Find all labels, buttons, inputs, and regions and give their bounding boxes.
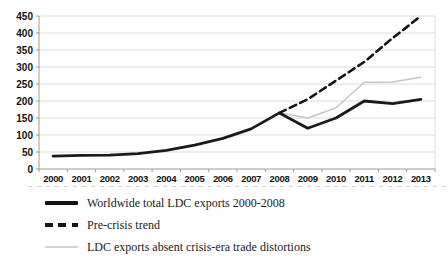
svg-text:2012: 2012: [383, 173, 403, 184]
ldc-exports-chart-svg: 0501001502002503003504004502000200120022…: [0, 0, 448, 192]
dashed-line-swatch: [45, 223, 78, 227]
svg-text:150: 150: [16, 113, 33, 124]
chart-legend-divider: [28, 186, 445, 187]
legend-label-pre-crisis-trend: Pre-crisis trend: [87, 218, 160, 233]
legend-label-absent-distortions: LDC exports absent crisis-era trade dist…: [87, 240, 311, 255]
legend-item-absent-distortions: LDC exports absent crisis-era trade dist…: [0, 236, 448, 258]
svg-text:2003: 2003: [128, 173, 148, 184]
svg-text:50: 50: [22, 147, 34, 158]
svg-text:250: 250: [16, 79, 33, 90]
legend-item-worldwide-exports: Worldwide total LDC exports 2000-2008: [0, 192, 448, 214]
legend-item-pre-crisis-trend: Pre-crisis trend: [0, 214, 448, 236]
svg-text:200: 200: [16, 96, 33, 107]
series-line-2: [279, 77, 421, 118]
svg-text:2011: 2011: [355, 173, 375, 184]
svg-text:2007: 2007: [241, 173, 261, 184]
svg-text:400: 400: [16, 28, 33, 39]
x-axis-labels: 2000200120022003200420052006200720082009…: [43, 173, 431, 184]
gridlines: [39, 16, 435, 169]
ldc-exports-chart: 0501001502002503003504004502000200120022…: [0, 0, 448, 192]
thick-solid-line-swatch: [45, 201, 78, 205]
svg-text:2005: 2005: [185, 173, 206, 184]
thin-gray-line-swatch: [45, 246, 78, 248]
svg-text:2004: 2004: [156, 173, 177, 184]
svg-text:2008: 2008: [269, 173, 289, 184]
svg-text:100: 100: [16, 130, 33, 141]
svg-text:0: 0: [27, 164, 33, 175]
svg-text:2002: 2002: [100, 173, 120, 184]
svg-text:300: 300: [16, 62, 33, 73]
svg-text:2006: 2006: [213, 173, 233, 184]
legend: Worldwide total LDC exports 2000-2008 Pr…: [0, 192, 448, 258]
series-line-0: [53, 99, 421, 156]
svg-text:350: 350: [16, 45, 33, 56]
svg-text:2009: 2009: [298, 173, 318, 184]
svg-text:2000: 2000: [43, 173, 63, 184]
svg-text:450: 450: [16, 11, 33, 22]
legend-label-worldwide-exports: Worldwide total LDC exports 2000-2008: [87, 196, 285, 211]
ldc-exports-figure: 0501001502002503003504004502000200120022…: [0, 0, 448, 259]
series-line-1: [279, 16, 421, 113]
y-axis-labels: 050100150200250300350400450: [16, 11, 33, 175]
svg-text:2001: 2001: [71, 173, 92, 184]
svg-text:2013: 2013: [411, 173, 431, 184]
svg-text:2010: 2010: [326, 173, 346, 184]
axes: [36, 16, 435, 172]
